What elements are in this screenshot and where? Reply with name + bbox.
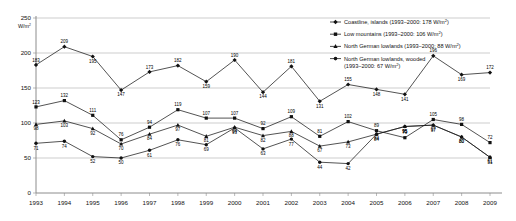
data-label: 63 <box>260 151 266 156</box>
line-chart: 050100150200250W/m2199319941995199619971… <box>0 0 516 221</box>
data-label: 51 <box>487 160 493 165</box>
data-label: 70 <box>119 146 125 151</box>
data-point-marker <box>346 162 349 165</box>
data-label: 97 <box>175 127 181 132</box>
data-label: 98 <box>459 117 465 122</box>
data-label: 92 <box>90 131 96 136</box>
data-label: 141 <box>401 97 409 102</box>
data-point-marker <box>176 138 179 141</box>
data-label: 147 <box>117 92 125 97</box>
x-tick-label-1994: 1994 <box>57 199 71 206</box>
data-point-marker <box>91 114 94 117</box>
y-tick-label-250: 250 <box>21 14 32 21</box>
x-tick-label-2000: 2000 <box>228 199 242 206</box>
data-label: 74 <box>62 144 68 149</box>
data-label: 195 <box>89 59 97 64</box>
data-label: 71 <box>33 146 39 151</box>
x-tick-label-2003: 2003 <box>313 199 327 206</box>
data-point-marker <box>34 142 37 145</box>
data-point-marker <box>233 126 236 129</box>
data-point-marker <box>176 108 179 111</box>
data-label: 77 <box>289 142 295 147</box>
data-label: 109 <box>288 109 296 114</box>
data-point-marker <box>205 143 208 146</box>
data-label: 82 <box>260 138 266 143</box>
data-point-marker <box>205 117 208 120</box>
data-label: 111 <box>89 108 96 113</box>
x-tick-label-2009: 2009 <box>483 199 497 206</box>
x-tick-label-1998: 1998 <box>171 199 185 206</box>
data-point-marker <box>233 117 236 120</box>
x-tick-label-1997: 1997 <box>143 199 157 206</box>
y-axis-unit-label: W/m2 <box>18 23 31 29</box>
data-point-marker <box>460 135 463 138</box>
data-point-marker <box>488 71 492 75</box>
data-point-marker <box>62 45 66 49</box>
data-point-marker <box>488 141 491 144</box>
data-label: 84 <box>374 137 380 142</box>
data-point-marker <box>346 82 350 86</box>
data-label: 98 <box>33 126 39 131</box>
data-point-marker <box>147 70 151 74</box>
data-point-marker <box>148 126 151 129</box>
data-label: 148 <box>373 92 381 97</box>
data-label: 52 <box>90 159 96 164</box>
data-label: 119 <box>174 102 182 107</box>
data-label: 172 <box>486 65 494 70</box>
data-point-marker <box>347 120 350 123</box>
x-tick-label-2001: 2001 <box>256 199 270 206</box>
x-tick-label-2005: 2005 <box>370 199 384 206</box>
data-label: 72 <box>487 135 493 140</box>
data-label: 81 <box>204 138 210 143</box>
data-label: 182 <box>174 58 182 63</box>
legend-marker-1 <box>334 33 337 36</box>
data-point-marker <box>375 129 378 132</box>
x-tick-label-1999: 1999 <box>199 199 213 206</box>
y-tick-label-150: 150 <box>21 84 32 91</box>
data-point-marker <box>261 147 264 150</box>
data-label: 94 <box>147 120 153 125</box>
data-point-marker <box>318 161 321 164</box>
data-label: 84 <box>147 136 153 141</box>
legend-label-0: Coastline, islands (1993–2000: 178 W/m2) <box>344 18 449 26</box>
data-label: 103 <box>61 123 69 128</box>
data-point-marker <box>63 99 66 102</box>
data-point-marker <box>148 149 151 152</box>
data-label: 81 <box>317 129 323 134</box>
data-label: 190 <box>231 53 239 58</box>
legend-marker-3 <box>334 57 338 61</box>
data-label: 50 <box>119 160 125 165</box>
data-label: 42 <box>346 166 352 171</box>
data-label: 73 <box>346 144 352 149</box>
data-label: 44 <box>317 165 323 170</box>
data-label: 105 <box>429 112 437 117</box>
data-label: 102 <box>344 114 352 119</box>
data-label: 159 <box>202 84 210 89</box>
data-point-marker <box>261 127 264 130</box>
data-label: 76 <box>119 132 125 137</box>
data-point-marker <box>119 156 122 159</box>
data-label: 144 <box>259 94 267 99</box>
data-point-marker <box>63 140 66 143</box>
y-tick-label-200: 200 <box>21 49 32 56</box>
x-tick-label-2008: 2008 <box>455 199 469 206</box>
data-label: 61 <box>147 153 153 158</box>
legend-label-2: North German lowlands (1993–2000: 88 W/m… <box>344 42 461 50</box>
data-point-marker <box>318 135 321 138</box>
y-tick-label-100: 100 <box>21 119 32 126</box>
data-point-marker <box>432 118 435 121</box>
data-label: 155 <box>344 77 352 82</box>
x-tick-label-1993: 1993 <box>29 199 43 206</box>
x-tick-label-2002: 2002 <box>284 199 298 206</box>
data-label: 107 <box>231 111 239 116</box>
data-label: 107 <box>202 111 210 116</box>
data-label: 69 <box>204 147 210 152</box>
legend-marker-0 <box>333 20 337 24</box>
data-point-marker <box>176 64 180 68</box>
data-label: 123 <box>32 100 40 105</box>
data-label: 173 <box>146 65 154 70</box>
data-point-marker <box>403 125 406 128</box>
data-label: 209 <box>61 39 69 44</box>
data-point-marker <box>91 155 94 158</box>
x-tick-label-1995: 1995 <box>86 199 100 206</box>
